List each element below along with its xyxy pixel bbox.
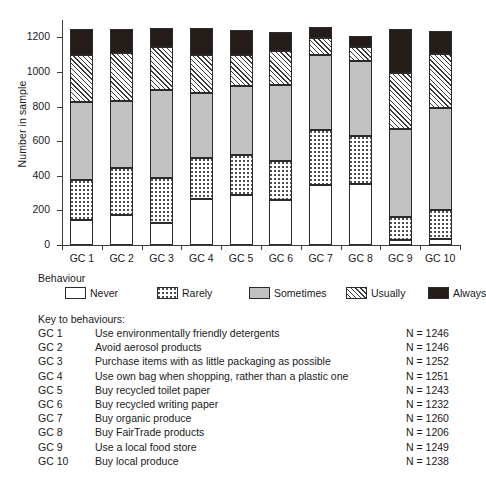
bar-gc-9[interactable]: [389, 20, 412, 245]
legend-label: Usually: [371, 287, 405, 299]
bar-segment-sometimes[interactable]: [429, 108, 452, 210]
key-row: GC 3Purchase items with as little packag…: [38, 354, 468, 368]
y-axis-tick: 600: [57, 141, 62, 142]
bar-segment-never[interactable]: [150, 223, 173, 245]
x-axis-label-gc-2: GC 2: [102, 252, 142, 264]
bar-gc-3[interactable]: [150, 20, 173, 245]
legend-swatch-always-icon: [428, 287, 449, 299]
y-axis-tick-label: 0: [10, 238, 50, 250]
legend-title: Behaviour: [38, 272, 468, 284]
bar-segment-never[interactable]: [429, 239, 452, 245]
bar-segment-sometimes[interactable]: [150, 90, 173, 179]
bar-segment-rarely[interactable]: [349, 136, 372, 184]
key-row: GC 7Buy organic produceN = 1260: [38, 411, 468, 425]
y-axis-tick: 1000: [57, 72, 62, 73]
x-axis-label-gc-1: GC 1: [62, 252, 102, 264]
bar-segment-never[interactable]: [110, 215, 133, 245]
bar-segment-rarely[interactable]: [429, 210, 452, 239]
bar-segment-sometimes[interactable]: [309, 55, 332, 129]
legend-item-always[interactable]: Always: [428, 287, 486, 299]
key-row-sample-size: N = 1249: [406, 440, 468, 454]
bar-segment-always[interactable]: [150, 28, 173, 47]
bar-segment-usually[interactable]: [349, 47, 372, 61]
bar-segment-rarely[interactable]: [309, 130, 332, 185]
y-axis-tick: 800: [57, 107, 62, 108]
bar-segment-never[interactable]: [389, 240, 412, 245]
bar-segment-usually[interactable]: [309, 38, 332, 56]
bar-segment-rarely[interactable]: [190, 158, 213, 199]
bar-segment-never[interactable]: [70, 220, 93, 245]
bar-segment-sometimes[interactable]: [349, 61, 372, 137]
x-axis-tick: [301, 245, 302, 250]
bar-segment-always[interactable]: [110, 29, 133, 53]
bar-segment-rarely[interactable]: [150, 178, 173, 222]
key-row: GC 10Buy local produceN = 1238: [38, 454, 468, 468]
bar-segment-rarely[interactable]: [230, 155, 253, 195]
legend: Behaviour NeverRarelySometimesUsuallyAlw…: [38, 272, 468, 303]
bar-segment-never[interactable]: [309, 185, 332, 245]
bar-segment-rarely[interactable]: [269, 161, 292, 200]
bar-segment-never[interactable]: [230, 195, 253, 245]
bar-segment-always[interactable]: [269, 32, 292, 51]
bar-segment-rarely[interactable]: [70, 180, 93, 220]
key-row-code: GC 8: [38, 425, 95, 439]
bar-segment-always[interactable]: [429, 31, 452, 54]
bar-gc-5[interactable]: [230, 20, 253, 245]
bar-segment-always[interactable]: [389, 29, 412, 73]
bar-segment-rarely[interactable]: [389, 217, 412, 240]
legend-swatch-sometimes-icon: [249, 287, 270, 299]
bar-segment-always[interactable]: [190, 28, 213, 54]
bar-gc-10[interactable]: [429, 20, 452, 245]
legend-item-never[interactable]: Never: [65, 287, 118, 299]
key-row: GC 1Use environmentally friendly deterge…: [38, 326, 468, 340]
x-axis-tick: [62, 245, 63, 250]
x-axis-tick: [460, 245, 461, 250]
legend-label: Always: [453, 287, 486, 299]
bar-segment-usually[interactable]: [429, 54, 452, 108]
bar-segment-always[interactable]: [309, 27, 332, 38]
bar-segment-sometimes[interactable]: [110, 101, 133, 169]
legend-label: Never: [90, 287, 118, 299]
key-row: GC 6Buy recycled writing paperN = 1232: [38, 397, 468, 411]
legend-item-rarely[interactable]: Rarely: [157, 287, 212, 299]
bar-gc-8[interactable]: [349, 20, 372, 245]
bar-segment-never[interactable]: [349, 184, 372, 245]
bar-segment-sometimes[interactable]: [389, 129, 412, 217]
key-row-sample-size: N = 1246: [406, 326, 468, 340]
key-row-code: GC 4: [38, 369, 95, 383]
bar-segment-usually[interactable]: [190, 55, 213, 94]
bar-segment-never[interactable]: [269, 200, 292, 245]
bar-segment-usually[interactable]: [110, 53, 133, 101]
x-axis-label-gc-4: GC 4: [181, 252, 221, 264]
bar-gc-2[interactable]: [110, 20, 133, 245]
y-axis-tick-label: 800: [10, 100, 50, 112]
bar-gc-6[interactable]: [269, 20, 292, 245]
legend-items: NeverRarelySometimesUsuallyAlways: [65, 287, 468, 303]
x-axis-tick: [221, 245, 222, 250]
x-axis-tick: [102, 245, 103, 250]
legend-item-sometimes[interactable]: Sometimes: [249, 287, 327, 299]
key-row-description: Use own bag when shopping, rather than a…: [95, 369, 406, 383]
key-row-description: Buy organic produce: [95, 411, 406, 425]
bar-segment-rarely[interactable]: [110, 168, 133, 214]
bar-gc-1[interactable]: [70, 20, 93, 245]
bar-gc-4[interactable]: [190, 20, 213, 245]
x-axis-tick: [341, 245, 342, 250]
bar-segment-usually[interactable]: [70, 55, 93, 103]
bar-segment-sometimes[interactable]: [269, 85, 292, 161]
bar-segment-sometimes[interactable]: [70, 102, 93, 180]
key-row: GC 2Avoid aerosol productsN = 1246: [38, 340, 468, 354]
bar-segment-usually[interactable]: [230, 55, 253, 86]
legend-item-usually[interactable]: Usually: [346, 287, 405, 299]
bar-gc-7[interactable]: [309, 20, 332, 245]
bar-segment-never[interactable]: [190, 199, 213, 245]
bar-segment-sometimes[interactable]: [230, 86, 253, 155]
bar-segment-usually[interactable]: [389, 73, 412, 129]
bar-segment-always[interactable]: [349, 36, 372, 47]
bar-segment-sometimes[interactable]: [190, 93, 213, 158]
bar-segment-always[interactable]: [70, 29, 93, 54]
plot-area: 020040060080010001200 GC 1GC 2GC 3GC 4GC…: [62, 20, 460, 245]
bar-segment-always[interactable]: [230, 30, 253, 55]
bar-segment-usually[interactable]: [269, 51, 292, 85]
bar-segment-usually[interactable]: [150, 47, 173, 90]
